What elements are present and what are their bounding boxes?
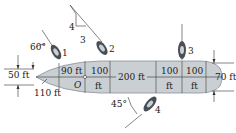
dim-100b-bottom: ft xyxy=(166,81,173,91)
angle-label-tug1: 60° xyxy=(30,42,46,52)
tug4-label: 4 xyxy=(155,105,161,115)
origin-point xyxy=(83,75,86,78)
ship-tugboat-diagram: 60° 1 4 3 2 3 4 50 ft 110 ft 90 ft O 100… xyxy=(0,0,236,133)
tug3-label: 3 xyxy=(188,46,194,56)
dim-100a-bottom: ft xyxy=(95,81,102,91)
slope-rise-label: 4 xyxy=(69,22,75,32)
dim-bow-length: 110 ft xyxy=(34,88,61,98)
dim-left-width: 50 ft xyxy=(8,70,29,80)
angle-label-tug4: 45° xyxy=(111,99,127,109)
dim-100b-top: 100 xyxy=(161,66,178,76)
dim-100a-top: 100 xyxy=(91,66,108,76)
tug2-label: 2 xyxy=(109,44,115,54)
tug1-label: 1 xyxy=(62,48,68,58)
slope-run-label: 3 xyxy=(80,35,86,45)
dim-200: 200 ft xyxy=(116,72,147,82)
dim-100c-top: 100 xyxy=(186,66,203,76)
origin-label: O xyxy=(74,80,81,90)
dim-right-width: 70 ft xyxy=(215,72,236,82)
dim-90: 90 ft xyxy=(61,66,82,76)
dim-100c-bottom: ft xyxy=(191,81,198,91)
